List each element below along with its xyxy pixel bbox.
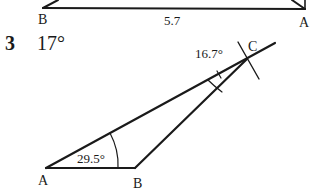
vertex-label-b: B	[133, 177, 142, 191]
side-bc	[135, 59, 247, 168]
angle-label-c: 16.7°	[195, 47, 223, 60]
bottom-triangle	[46, 42, 275, 168]
angle-arc-a	[110, 133, 118, 168]
side-ac-extended	[46, 43, 275, 168]
angle-label-a: 29.5°	[77, 152, 105, 165]
vertex-label-c: C	[248, 40, 257, 54]
vertex-label-b-top: B	[38, 13, 47, 27]
side-a-up	[292, 0, 305, 9]
top-triangle	[43, 0, 305, 9]
question-number: 3	[5, 33, 15, 53]
geometry-diagram	[0, 0, 322, 196]
answer-text: 17°	[37, 33, 65, 53]
side-b-up	[43, 0, 58, 8]
vertex-label-a: A	[38, 174, 48, 188]
side-ba	[43, 8, 305, 9]
side-length-label: 5.7	[164, 14, 180, 27]
vertex-label-a-top: A	[299, 16, 309, 30]
